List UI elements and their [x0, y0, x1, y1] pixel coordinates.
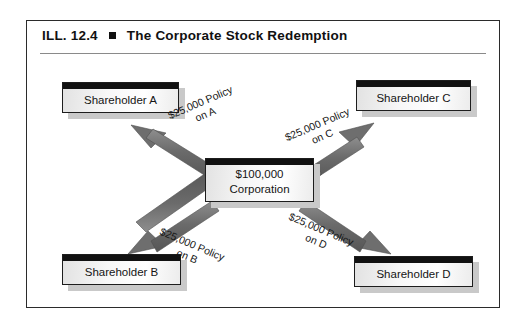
- corporation-amount: $100,000: [236, 168, 284, 180]
- box-body: Shareholder C: [356, 80, 471, 111]
- node-shareholder-d[interactable]: Shareholder D: [354, 256, 473, 287]
- box-body: Shareholder A: [62, 82, 179, 113]
- box-body: Shareholder B: [62, 254, 181, 285]
- node-label: Shareholder B: [85, 260, 159, 279]
- node-label: Shareholder D: [376, 262, 450, 281]
- node-label: Shareholder A: [84, 88, 157, 107]
- diagram-canvas: ILL. 12.4 The Corporate Stock Redemption: [0, 0, 526, 332]
- node-shareholder-b[interactable]: Shareholder B: [62, 254, 181, 285]
- node-label: Shareholder C: [376, 86, 450, 105]
- node-shareholder-a[interactable]: Shareholder A: [62, 82, 179, 113]
- node-shareholder-c[interactable]: Shareholder C: [356, 80, 471, 111]
- corporation-name: Corporation: [229, 183, 289, 195]
- node-label: $100,000 Corporation: [229, 163, 289, 197]
- box-body: $100,000 Corporation: [205, 158, 314, 202]
- node-corporation[interactable]: $100,000 Corporation: [205, 158, 314, 202]
- box-body: Shareholder D: [354, 256, 473, 287]
